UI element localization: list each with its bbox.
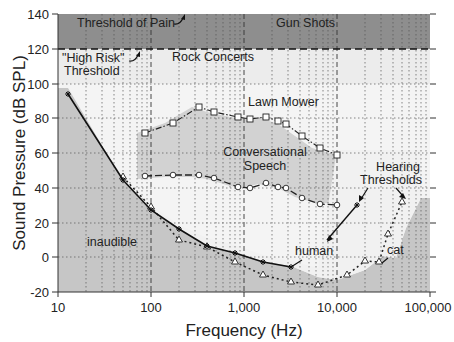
label-conversational: Conversational [223, 145, 306, 159]
label-lawn-mower: Lawn Mower [248, 95, 319, 109]
label-high-risk-threshold: Threshold [64, 64, 120, 78]
y-tick: 80 [35, 111, 49, 126]
label-inaudible: inaudible [87, 235, 137, 249]
y-tick-labels: 140 120 100 80 60 40 20 0 -20 [27, 7, 49, 300]
label-cat: cat [387, 243, 404, 257]
label-gun-shots: Gun Shots [276, 16, 335, 30]
label-high-risk: "High Risk" [62, 51, 124, 65]
x-tick: 1,000 [228, 300, 261, 315]
y-tick: 120 [27, 42, 49, 57]
y-tick: 60 [35, 146, 49, 161]
y-tick: 20 [35, 216, 49, 231]
label-threshold-of-pain: Threshold of Pain [77, 16, 175, 30]
hearing-chart: 140 120 100 80 60 40 20 0 -20 10 100 1,0… [0, 0, 454, 342]
label-human: human [295, 244, 333, 258]
y-tick: 100 [27, 77, 49, 92]
y-tick: 140 [27, 7, 49, 22]
x-tick: 10,000 [317, 300, 357, 315]
y-tick: 0 [42, 250, 49, 265]
label-thresholds: Thresholds [360, 173, 422, 187]
y-axis-title: Sound Pressure (dB SPL) [10, 55, 29, 251]
x-tick: 100 [140, 300, 162, 315]
y-tick: -20 [30, 285, 49, 300]
x-axis-title: Frequency (Hz) [185, 321, 302, 340]
y-tick: 40 [35, 181, 49, 196]
x-tick: 100,000 [405, 300, 452, 315]
label-speech: Speech [244, 159, 286, 173]
x-tick: 10 [51, 300, 65, 315]
x-tick-labels: 10 100 1,000 10,000 100,000 [51, 300, 452, 315]
label-hearing: Hearing [376, 160, 420, 174]
label-rock-concerts: Rock Concerts [172, 50, 254, 64]
